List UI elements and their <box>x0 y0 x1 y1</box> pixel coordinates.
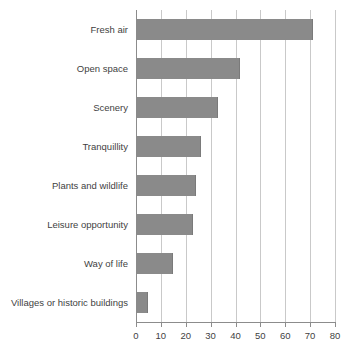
bar-row <box>136 166 335 205</box>
bar[interactable] <box>136 292 148 313</box>
x-tick-label-80: 80 <box>320 330 342 341</box>
bar-row <box>136 205 335 244</box>
bar-chart: Fresh airOpen spaceSceneryTranquillityPl… <box>0 0 342 357</box>
tick-mark-70 <box>310 322 311 327</box>
bar[interactable] <box>136 58 240 79</box>
bar[interactable] <box>136 253 173 274</box>
category-label: Plants and wildlife <box>0 180 128 191</box>
bar-row <box>136 49 335 88</box>
bar[interactable] <box>136 19 313 40</box>
x-axis-tick-labels: 01020304050607080 <box>0 330 342 346</box>
bar-row <box>136 244 335 283</box>
category-label: Leisure opportunity <box>0 219 128 230</box>
tick-mark-40 <box>236 322 237 327</box>
category-label: Scenery <box>0 102 128 113</box>
bar-row <box>136 10 335 49</box>
tick-mark-80 <box>335 322 336 327</box>
bar[interactable] <box>136 214 193 235</box>
gridline-x-80 <box>335 10 336 322</box>
bar[interactable] <box>136 97 218 118</box>
bar-row <box>136 127 335 166</box>
bar-row <box>136 88 335 127</box>
category-axis-labels: Fresh airOpen spaceSceneryTranquillityPl… <box>0 10 132 322</box>
category-label: Way of life <box>0 258 128 269</box>
category-label: Tranquillity <box>0 141 128 152</box>
bar-row <box>136 283 335 322</box>
tick-mark-50 <box>260 322 261 327</box>
bar[interactable] <box>136 175 196 196</box>
tick-mark-0 <box>136 322 137 327</box>
category-label: Villages or historic buildings <box>0 297 128 308</box>
tick-mark-30 <box>211 322 212 327</box>
tick-mark-60 <box>285 322 286 327</box>
category-label: Open space <box>0 63 128 74</box>
bar[interactable] <box>136 136 201 157</box>
tick-mark-10 <box>161 322 162 327</box>
category-label: Fresh air <box>0 24 128 35</box>
tick-mark-20 <box>186 322 187 327</box>
plot-area <box>136 10 335 322</box>
